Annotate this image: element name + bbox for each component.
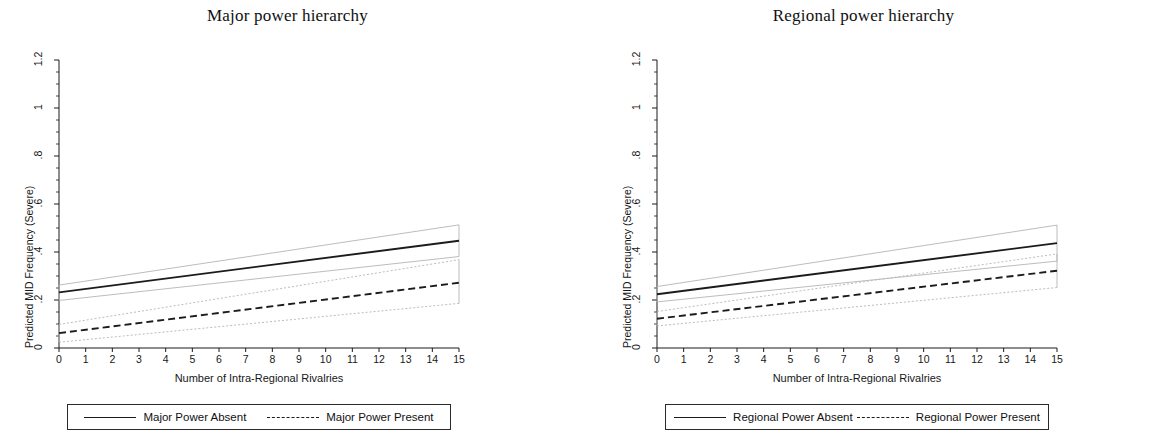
series-line-solid bbox=[59, 241, 459, 293]
legend-solid-line-icon bbox=[674, 417, 726, 418]
x-tick-label: 11 bbox=[940, 353, 960, 365]
x-axis-label: Number of Intra-Regional Rivalries bbox=[657, 372, 1057, 384]
confidence-band-lower bbox=[59, 257, 459, 301]
panel-title: Major power hierarchy bbox=[0, 6, 575, 26]
y-tick-label: 0 bbox=[32, 334, 44, 360]
legend-label: Major Power Present bbox=[326, 411, 433, 423]
legend-entry-solid: Major Power Absent bbox=[84, 411, 246, 423]
x-axis-label: Number of Intra-Regional Rivalries bbox=[59, 372, 459, 384]
plot-svg bbox=[631, 56, 1071, 374]
confidence-band-upper bbox=[59, 260, 459, 325]
y-tick-label: 1.2 bbox=[630, 46, 642, 72]
plot-svg bbox=[33, 56, 473, 374]
y-tick-label: .4 bbox=[32, 238, 44, 264]
x-tick-label: 5 bbox=[182, 353, 202, 365]
series-line-solid bbox=[657, 243, 1057, 294]
legend-entry-dashed: Regional Power Present bbox=[857, 411, 1040, 423]
x-tick-label: 8 bbox=[860, 353, 880, 365]
y-tick-label: .8 bbox=[630, 142, 642, 168]
confidence-band-lower bbox=[59, 303, 459, 342]
legend-solid-line-icon bbox=[84, 417, 136, 418]
figure-two-panel-chart: Major power hierarchy Predicted MID Freq… bbox=[0, 0, 1151, 434]
plot-area bbox=[631, 56, 1071, 374]
confidence-band-upper bbox=[59, 225, 459, 285]
x-tick-label: 8 bbox=[262, 353, 282, 365]
x-tick-label: 5 bbox=[780, 353, 800, 365]
y-tick-label: .6 bbox=[32, 190, 44, 216]
x-tick-label: 10 bbox=[914, 353, 934, 365]
x-tick-label: 2 bbox=[102, 353, 122, 365]
x-tick-label: 14 bbox=[1020, 353, 1040, 365]
x-tick-label: 3 bbox=[129, 353, 149, 365]
x-tick-label: 10 bbox=[316, 353, 336, 365]
panel-regional-power-hierarchy: Regional power hierarchy Predicted MID F… bbox=[576, 0, 1151, 434]
x-tick-label: 6 bbox=[807, 353, 827, 365]
legend-entry-dashed: Major Power Present bbox=[267, 411, 433, 423]
x-tick-label: 13 bbox=[396, 353, 416, 365]
confidence-band-lower bbox=[657, 261, 1057, 302]
plot-area bbox=[33, 56, 473, 374]
series-line-dashed bbox=[59, 283, 459, 333]
x-tick-label: 7 bbox=[834, 353, 854, 365]
legend: Major Power Absent Major Power Present bbox=[67, 404, 451, 430]
x-tick-label: 15 bbox=[449, 353, 469, 365]
x-tick-label: 1 bbox=[76, 353, 96, 365]
legend-dashed-line-icon bbox=[267, 417, 319, 418]
legend-label: Major Power Absent bbox=[143, 411, 246, 423]
y-tick-label: 1.2 bbox=[32, 46, 44, 72]
x-tick-label: 13 bbox=[994, 353, 1014, 365]
confidence-band-upper bbox=[657, 254, 1057, 312]
x-tick-label: 0 bbox=[49, 353, 69, 365]
x-tick-label: 14 bbox=[422, 353, 442, 365]
legend-dashed-line-icon bbox=[857, 417, 909, 418]
legend-label: Regional Power Present bbox=[916, 411, 1040, 423]
y-tick-label: .4 bbox=[630, 238, 642, 264]
x-tick-label: 7 bbox=[236, 353, 256, 365]
x-tick-label: 1 bbox=[674, 353, 694, 365]
panel-major-power-hierarchy: Major power hierarchy Predicted MID Freq… bbox=[0, 0, 575, 434]
x-tick-label: 9 bbox=[887, 353, 907, 365]
x-tick-label: 6 bbox=[209, 353, 229, 365]
x-tick-label: 11 bbox=[342, 353, 362, 365]
x-tick-label: 4 bbox=[754, 353, 774, 365]
x-tick-label: 0 bbox=[647, 353, 667, 365]
y-tick-label: .2 bbox=[630, 286, 642, 312]
x-tick-label: 3 bbox=[727, 353, 747, 365]
legend-label: Regional Power Absent bbox=[733, 411, 853, 423]
x-tick-label: 15 bbox=[1047, 353, 1067, 365]
y-tick-label: .8 bbox=[32, 142, 44, 168]
y-tick-label: .2 bbox=[32, 286, 44, 312]
x-tick-label: 4 bbox=[156, 353, 176, 365]
x-tick-label: 12 bbox=[967, 353, 987, 365]
x-tick-label: 9 bbox=[289, 353, 309, 365]
legend-entry-solid: Regional Power Absent bbox=[674, 411, 853, 423]
y-tick-label: .6 bbox=[630, 190, 642, 216]
legend: Regional Power Absent Regional Power Pre… bbox=[665, 404, 1049, 430]
y-tick-label: 0 bbox=[630, 334, 642, 360]
y-tick-label: 1 bbox=[32, 94, 44, 120]
series-line-dashed bbox=[657, 271, 1057, 319]
x-tick-label: 12 bbox=[369, 353, 389, 365]
confidence-band-lower bbox=[657, 288, 1057, 326]
x-tick-label: 2 bbox=[700, 353, 720, 365]
y-tick-label: 1 bbox=[630, 94, 642, 120]
panel-title: Regional power hierarchy bbox=[576, 6, 1151, 26]
